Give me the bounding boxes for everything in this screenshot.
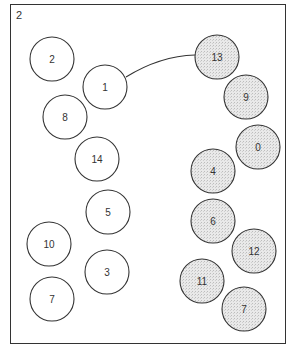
node-shaded-11: 11	[180, 259, 224, 303]
node-label: 7	[241, 304, 247, 315]
node-plain-14: 14	[75, 137, 119, 181]
node-plain-10: 10	[27, 222, 71, 266]
node-label: 13	[211, 52, 223, 63]
node-group: 218145103713904612117	[27, 35, 280, 331]
node-label: 10	[43, 239, 55, 250]
node-label: 14	[91, 154, 103, 165]
node-shaded-7: 7	[222, 287, 266, 331]
node-label: 0	[255, 142, 261, 153]
node-label: 11	[197, 276, 208, 287]
node-shaded-13: 13	[195, 35, 239, 79]
node-plain-2: 2	[30, 37, 74, 81]
node-shaded-12: 12	[232, 229, 276, 273]
node-label: 2	[49, 54, 55, 65]
node-label: 8	[62, 112, 68, 123]
node-plain-7: 7	[30, 277, 74, 321]
node-shaded-0: 0	[236, 125, 280, 169]
node-diagram: 218145103713904612117	[0, 0, 293, 354]
node-label: 1	[102, 82, 108, 93]
node-plain-1: 1	[83, 65, 127, 109]
node-shaded-9: 9	[224, 75, 268, 119]
node-shaded-6: 6	[191, 199, 235, 243]
node-label: 12	[248, 246, 260, 257]
node-label: 4	[210, 166, 216, 177]
node-plain-3: 3	[85, 250, 129, 294]
node-label: 3	[104, 267, 110, 278]
node-label: 9	[243, 92, 249, 103]
node-plain-5: 5	[86, 190, 130, 234]
edge-1-to-13	[126, 55, 195, 77]
node-label: 6	[210, 216, 216, 227]
node-label: 5	[105, 207, 111, 218]
node-plain-8: 8	[43, 95, 87, 139]
node-label: 7	[49, 294, 55, 305]
node-shaded-4: 4	[191, 149, 235, 193]
